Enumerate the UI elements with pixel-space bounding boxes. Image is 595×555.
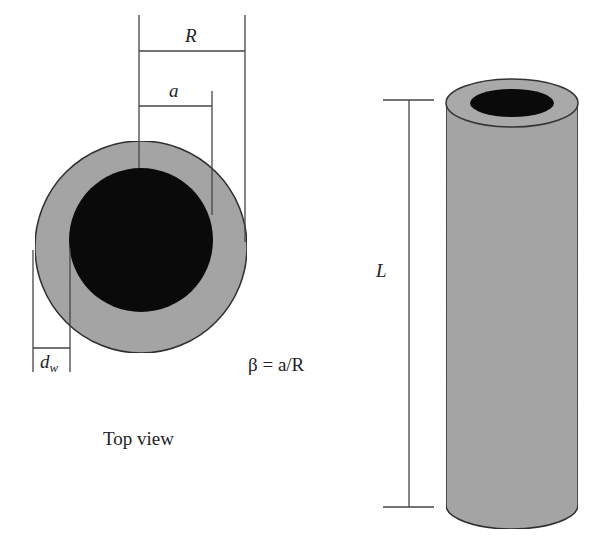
caption-top-view: Top view xyxy=(103,428,174,449)
side-view-cylinder: L xyxy=(375,79,578,529)
label-R: R xyxy=(184,25,197,46)
cylinder-body xyxy=(446,103,578,529)
L-dimension xyxy=(383,100,434,507)
top-view: R a dw β = a/R Top view xyxy=(33,15,305,449)
label-L: L xyxy=(375,260,387,281)
label-dw: dw xyxy=(40,351,59,375)
inner-core-circle xyxy=(69,168,213,312)
formula-beta: β = a/R xyxy=(248,354,305,375)
cylinder-geometry-diagram: R a dw β = a/R Top view L xyxy=(0,0,595,555)
label-a: a xyxy=(169,80,179,101)
cylinder-bore xyxy=(470,89,554,117)
